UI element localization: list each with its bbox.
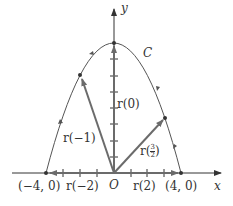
- vector-label-r0: r(0): [117, 98, 140, 110]
- x-axis-label: x: [214, 180, 221, 192]
- origin-label: O: [109, 179, 119, 191]
- y-axis-label: y: [121, 2, 128, 14]
- point-label-neg4: (−4, 0): [18, 180, 60, 192]
- vector-label-r-minus-2: r(−2): [66, 180, 99, 192]
- vector-label-r2: r(2): [133, 180, 156, 192]
- point-label-pos4: (4, 0): [165, 180, 197, 192]
- curve-label: C: [143, 47, 152, 59]
- vector-label-r-minus-1: r(−1): [63, 132, 96, 144]
- vector-r-minus-1: [82, 79, 114, 173]
- vector-label-r-3-2: r(32): [140, 144, 160, 159]
